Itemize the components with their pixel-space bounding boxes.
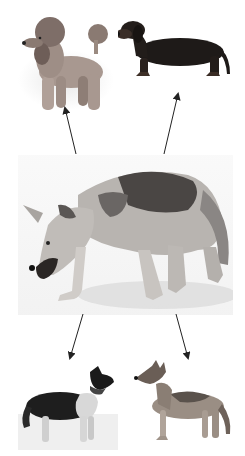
border-collie-image — [18, 362, 118, 450]
dachshund-image — [118, 12, 233, 87]
arrow-to-border-collie — [70, 314, 83, 358]
german-shepherd-image — [130, 360, 235, 450]
arrow-to-german-shepherd — [176, 314, 188, 358]
arrow-to-poodle — [65, 108, 76, 154]
poodle-image — [16, 10, 116, 110]
wolf-image — [18, 155, 233, 315]
arrow-to-dachshund — [164, 94, 178, 154]
